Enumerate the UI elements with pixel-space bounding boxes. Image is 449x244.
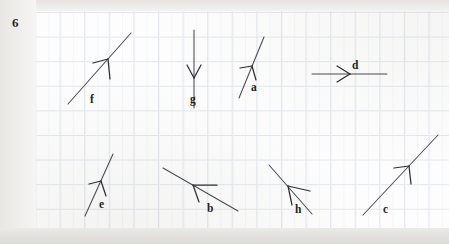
vector-label-g: g	[190, 94, 196, 106]
vector-label-f: f	[90, 94, 94, 106]
vector-label-b: b	[207, 203, 213, 215]
scan-edge-bottom	[0, 228, 449, 244]
worksheet-page: 6 fgadebhc	[0, 0, 449, 244]
vector-label-c: c	[383, 204, 388, 216]
scan-edge-top	[0, 0, 449, 11]
problem-number: 6	[12, 16, 19, 29]
vector-label-a: a	[251, 82, 257, 94]
vector-label-h: h	[295, 204, 301, 216]
vector-label-e: e	[99, 199, 104, 211]
graph-grid-fine	[36, 11, 449, 228]
graph-paper-sheet	[36, 11, 449, 228]
scan-edge-left	[0, 0, 36, 244]
vector-label-d: d	[352, 60, 358, 72]
